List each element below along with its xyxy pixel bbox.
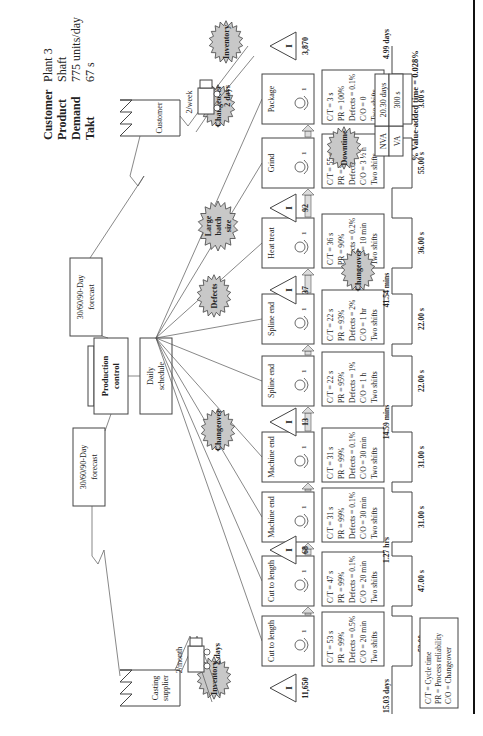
forecast-supplier-line2: forecast bbox=[90, 454, 99, 480]
process-box: Heat treat1 bbox=[262, 218, 314, 268]
value-added-percent: % Value-added time = 0.028% bbox=[410, 50, 420, 161]
inventory-icon-label: I bbox=[284, 44, 294, 48]
info-label-customer: Customer bbox=[41, 89, 55, 140]
nva-value: 20.30 days bbox=[379, 83, 388, 118]
process-name: Spline end bbox=[267, 364, 276, 398]
info-label-takt: Takt bbox=[83, 116, 97, 140]
va-value: 300 s bbox=[393, 91, 402, 108]
inventory-triangle: I11,650 bbox=[270, 674, 310, 702]
production-control-box: Production control bbox=[88, 338, 128, 414]
process-data-box: C/T = 47 sPR = 99%Defects = 0.1%C/O = 20… bbox=[322, 552, 384, 606]
inventory-count: 37 bbox=[301, 286, 310, 294]
forecast-customer-line1: 30/60/90-Day bbox=[76, 275, 85, 319]
customer-factory-icon: Customer bbox=[120, 100, 180, 136]
timeline-va-value: 31.00 s bbox=[417, 506, 426, 528]
operator-count: 1 bbox=[300, 505, 308, 509]
process-box: Machine end1 bbox=[262, 492, 314, 542]
process-data-line: PR = 95% bbox=[337, 371, 346, 403]
process-data-box: C/T = 22 sPR = 93%Defects = 2%C/O = 1 hr… bbox=[322, 290, 384, 344]
shipment-lead-time: 2 days bbox=[213, 643, 222, 665]
process-data-line: C/T = 36 s bbox=[326, 233, 335, 265]
timeline-va-value: 22.00 s bbox=[417, 308, 426, 330]
process-box: Grind1 bbox=[262, 138, 314, 188]
info-label-product: Product bbox=[55, 99, 69, 140]
process-data-line: Two shifts bbox=[370, 153, 379, 185]
process-data-line: PR = 99% bbox=[337, 507, 346, 539]
nva-label: NVA bbox=[379, 133, 388, 150]
process-data-line: C/T = 47 s bbox=[326, 571, 335, 603]
operator-count: 1 bbox=[300, 87, 308, 91]
timeline-nva-value: 4.99 days bbox=[382, 29, 391, 59]
info-block: Customer Product Demand Takt Plant 3 Sha… bbox=[41, 17, 97, 140]
process-data-line: C/T = 22 s bbox=[326, 371, 335, 403]
process-data-line: Two shifts bbox=[370, 309, 379, 341]
kaizen-burst-label: Large bbox=[204, 215, 213, 236]
process-data-line: Defects = 2% bbox=[348, 299, 357, 341]
process-data-line: Defects = 0.1% bbox=[348, 491, 357, 539]
info-value-demand: 775 units/day bbox=[69, 17, 83, 82]
kaizen-burst-label: Defects bbox=[210, 284, 219, 309]
legend: C/T = Cycle time PR = Process reliabilit… bbox=[420, 618, 458, 708]
kaizen-burst-label: Changeover bbox=[214, 409, 223, 451]
process-name: Machine end bbox=[267, 436, 276, 478]
summary-table: NVA 20.30 days VA 300 s % Value-added ti… bbox=[375, 50, 420, 161]
info-value-takt: 67 s bbox=[83, 62, 97, 82]
process-box: Machine end1 bbox=[262, 432, 314, 482]
process-data-line: C/T = 53 s bbox=[326, 631, 335, 663]
kaizen-burst-label: Inventory bbox=[222, 25, 231, 59]
process-name: Package bbox=[267, 85, 276, 112]
forecast-customer-line2: forecast bbox=[87, 284, 96, 310]
process-data-line: C/T = 3 s bbox=[326, 93, 335, 121]
production-control-line1: Production bbox=[100, 356, 110, 397]
inventory-count: 92 bbox=[301, 204, 310, 212]
kaizen-burst-label: Downtime bbox=[340, 130, 349, 166]
inventory-triangle: I3,870 bbox=[270, 32, 310, 60]
process-data-box: C/T = 31 sPR = 99%Defects = 0.1%C/O = 30… bbox=[322, 428, 384, 482]
process-data-line: Two shifts bbox=[370, 447, 379, 479]
operator-count: 1 bbox=[300, 629, 308, 633]
process-data-line: C/O = 1 h bbox=[359, 373, 368, 403]
shipment-frequency: 2/month bbox=[175, 647, 184, 674]
kaizen-burst-label: Changeover bbox=[354, 249, 363, 291]
process-data-line: C/O = 0 bbox=[359, 96, 368, 121]
forecast-from-customer: 30/60/90-Day forecast bbox=[70, 258, 102, 336]
process-data-line: Two shifts bbox=[370, 571, 379, 603]
info-value-customer: Plant 3 bbox=[41, 48, 55, 82]
process-data-line: C/O = 30 min bbox=[359, 497, 368, 539]
process-data-line: C/T = 31 s bbox=[326, 447, 335, 479]
push-arrow bbox=[305, 351, 311, 355]
operator-count: 1 bbox=[300, 569, 308, 573]
inventory-count: 11,650 bbox=[301, 677, 310, 699]
process-name: Spline end bbox=[267, 302, 276, 336]
process-name: Cut to length bbox=[267, 560, 276, 602]
process-data-line: PR = 99% bbox=[337, 447, 346, 479]
process-data-line: C/O = 1 hr bbox=[359, 308, 368, 341]
process-data-line: Defects = 0.1% bbox=[348, 555, 357, 603]
process-data-line: PR = 100% bbox=[337, 85, 346, 121]
push-arrow bbox=[305, 131, 311, 137]
process-data-line: Defects = 0.5% bbox=[348, 615, 357, 663]
daily-schedule-line2: schedule bbox=[157, 362, 166, 390]
process-box: Cut to length1 bbox=[262, 556, 314, 606]
process-box: Package1 bbox=[262, 74, 314, 124]
legend-ct: C/T = Cycle time bbox=[424, 651, 433, 704]
inventory-count: 68 bbox=[301, 546, 310, 554]
inventory-icon-label: I bbox=[284, 206, 294, 210]
process-data-line: Two shifts bbox=[370, 631, 379, 663]
process-data-line: Two shifts bbox=[370, 507, 379, 539]
process-name: Grind bbox=[267, 154, 276, 173]
process-data-line: Defects = 0.1% bbox=[348, 73, 357, 121]
timeline-nva-value: 14.59 mins bbox=[382, 405, 391, 440]
process-data-line: PR = 93% bbox=[337, 309, 346, 341]
inventory-icon-label: I bbox=[284, 420, 294, 424]
timeline-va-value: 36.00 s bbox=[417, 232, 426, 254]
operator-count: 1 bbox=[300, 231, 308, 235]
process-data-line: C/O = 20 min bbox=[359, 561, 368, 603]
supplier-label-line2: supplier bbox=[161, 675, 170, 701]
timeline-va-value: 31.00 s bbox=[417, 446, 426, 468]
inventory-icon-label: I bbox=[284, 288, 294, 292]
process-data-line: Defects = 1% bbox=[348, 361, 357, 403]
inventory-count: 3,870 bbox=[301, 37, 310, 55]
kaizen-burst: Inventory bbox=[209, 21, 242, 64]
customer-label: Customer bbox=[155, 102, 164, 133]
